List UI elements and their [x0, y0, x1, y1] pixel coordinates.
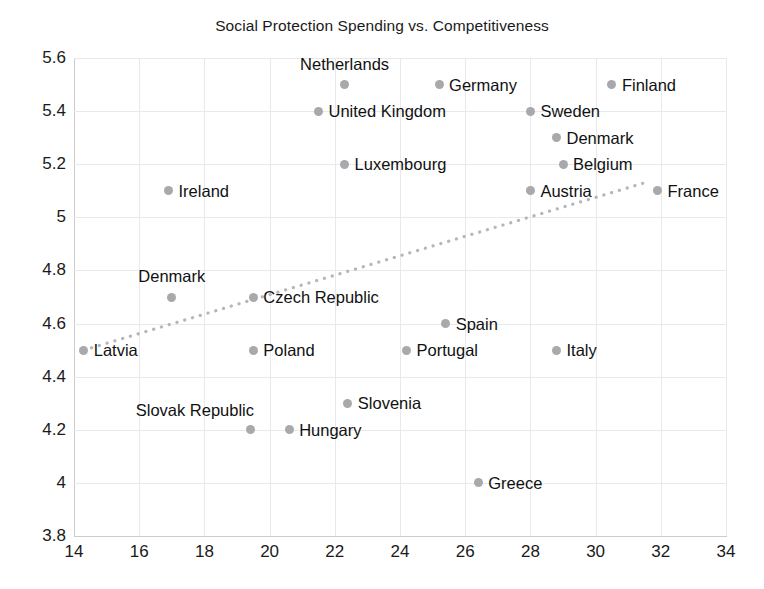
point-label: Austria	[540, 181, 591, 200]
x-tick-label: 18	[174, 542, 234, 562]
scatter-point[interactable]	[246, 425, 255, 434]
point-label: Netherlands	[300, 54, 389, 73]
x-tick-label: 32	[631, 542, 691, 562]
scatter-point[interactable]	[167, 293, 176, 302]
scatter-point[interactable]	[285, 425, 294, 434]
point-label: France	[668, 181, 719, 200]
gridline-vertical	[530, 58, 531, 536]
x-tick-label: 34	[696, 542, 756, 562]
y-tick-label: 4.8	[0, 260, 66, 280]
x-tick-label: 24	[370, 542, 430, 562]
point-label: Germany	[449, 75, 517, 94]
scatter-point[interactable]	[526, 186, 535, 195]
scatter-point[interactable]	[441, 319, 450, 328]
point-label: Luxembourg	[355, 155, 447, 174]
x-tick-label: 16	[109, 542, 169, 562]
y-tick-label: 5.2	[0, 154, 66, 174]
point-label: Hungary	[299, 420, 361, 439]
y-tick-label: 5	[0, 207, 66, 227]
x-tick-label: 22	[305, 542, 365, 562]
scatter-point[interactable]	[435, 80, 444, 89]
point-label: Czech Republic	[263, 288, 379, 307]
point-label: Greece	[488, 473, 542, 492]
scatter-point[interactable]	[552, 346, 561, 355]
gridline-horizontal	[74, 430, 726, 431]
y-tick-label: 4.6	[0, 314, 66, 334]
plot-area: NetherlandsGermanyFinlandUnited KingdomS…	[74, 58, 726, 536]
point-label: Portugal	[417, 341, 478, 360]
y-tick-label: 4	[0, 473, 66, 493]
x-tick-label: 14	[44, 542, 104, 562]
point-label: United Kingdom	[329, 102, 446, 121]
y-tick-label: 5.6	[0, 48, 66, 68]
point-label: Spain	[456, 314, 498, 333]
scatter-point[interactable]	[552, 133, 561, 142]
x-tick-label: 26	[435, 542, 495, 562]
scatter-point[interactable]	[314, 107, 323, 116]
gridline-vertical	[139, 58, 140, 536]
point-label: Sweden	[540, 102, 600, 121]
gridline-horizontal	[74, 217, 726, 218]
scatter-point[interactable]	[249, 346, 258, 355]
scatter-point[interactable]	[526, 107, 535, 116]
y-tick-label: 4.2	[0, 420, 66, 440]
x-axis-line	[74, 536, 727, 537]
scatter-point[interactable]	[164, 186, 173, 195]
y-tick-label: 5.4	[0, 101, 66, 121]
gridline-vertical	[204, 58, 205, 536]
gridline-vertical	[661, 58, 662, 536]
x-tick-label: 28	[500, 542, 560, 562]
point-label: Denmark	[138, 267, 205, 286]
scatter-point[interactable]	[559, 160, 568, 169]
point-label: Italy	[566, 341, 596, 360]
gridline-horizontal	[74, 377, 726, 378]
y-tick-label: 4.4	[0, 367, 66, 387]
gridline-vertical	[400, 58, 401, 536]
scatter-point[interactable]	[402, 346, 411, 355]
point-label: Poland	[263, 341, 314, 360]
scatter-point[interactable]	[343, 399, 352, 408]
x-tick-label: 30	[566, 542, 626, 562]
point-label: Slovak Republic	[136, 400, 254, 419]
scatter-point[interactable]	[607, 80, 616, 89]
scatter-point[interactable]	[79, 346, 88, 355]
scatter-point[interactable]	[249, 293, 258, 302]
chart-container: Social Protection Spending vs. Competiti…	[0, 0, 764, 589]
gridline-horizontal	[74, 324, 726, 325]
point-label: Denmark	[566, 128, 633, 147]
point-label: Ireland	[179, 181, 229, 200]
scatter-point[interactable]	[340, 80, 349, 89]
gridline-horizontal	[74, 483, 726, 484]
gridline-vertical	[465, 58, 466, 536]
scatter-point[interactable]	[474, 478, 483, 487]
point-label: Belgium	[573, 155, 633, 174]
page-title: Social Protection Spending vs. Competiti…	[0, 17, 764, 35]
scatter-point[interactable]	[340, 160, 349, 169]
gridline-horizontal	[74, 58, 726, 59]
gridline-vertical	[726, 58, 727, 536]
point-label: Slovenia	[358, 394, 421, 413]
point-label: Finland	[622, 75, 676, 94]
point-label: Latvia	[94, 341, 138, 360]
x-tick-label: 20	[240, 542, 300, 562]
